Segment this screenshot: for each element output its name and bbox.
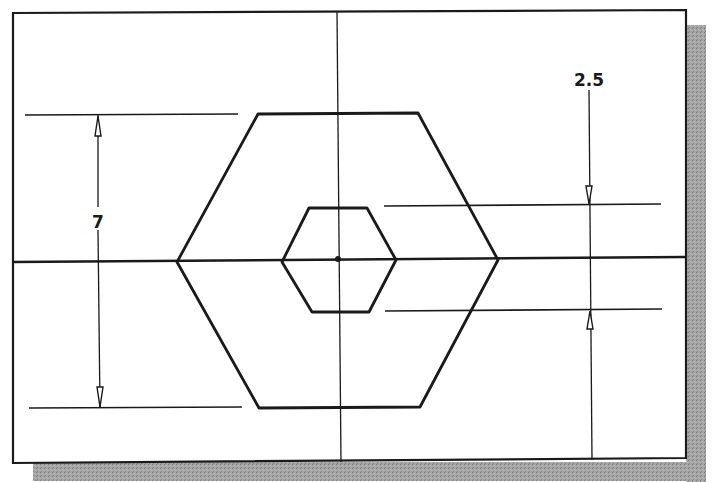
dimension-label-7[interactable]: 7 [92,212,104,232]
sketch-canvas: 7 2.5 [0,0,716,482]
extension-line-top [25,114,238,115]
dimension-label-2-5[interactable]: 2.5 [574,70,604,90]
origin-point[interactable] [335,256,341,262]
extension-line-bottom [29,407,242,408]
